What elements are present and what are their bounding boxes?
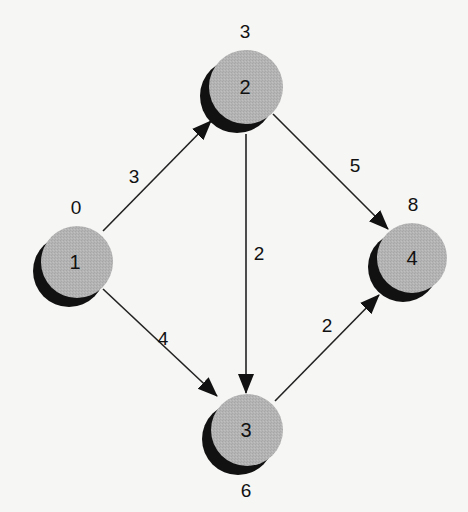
diagram-canvas: 3 4 2 5 2 1 2 3 4 0 3	[0, 0, 468, 512]
event-time-node-2: 3	[240, 21, 251, 42]
node-4: 4	[368, 223, 447, 302]
node-label: 4	[406, 247, 417, 269]
node-label: 1	[69, 251, 80, 273]
edges	[103, 114, 388, 401]
event-time-node-1: 0	[71, 197, 82, 218]
activity-network-diagram: 3 4 2 5 2 1 2 3 4 0 3	[0, 0, 468, 512]
edge-weight-1-3: 4	[158, 328, 169, 349]
node-3: 3	[202, 394, 283, 475]
node-1: 1	[33, 226, 113, 307]
node-2: 2	[200, 50, 283, 133]
edge-weight-2-4: 5	[350, 155, 361, 176]
edge-weights: 3 4 2 5 2	[129, 155, 361, 349]
edge-weight-3-4: 2	[322, 315, 333, 336]
edge-3-to-4	[275, 295, 379, 401]
node-label: 3	[240, 419, 251, 441]
event-time-node-3: 6	[241, 480, 252, 501]
event-time-node-4: 8	[408, 194, 419, 215]
node-label: 2	[239, 76, 250, 98]
edge-weight-2-3: 2	[254, 243, 265, 264]
edge-2-to-4	[273, 114, 388, 229]
edge-1-to-2	[103, 121, 211, 231]
edge-weight-1-2: 3	[129, 166, 140, 187]
